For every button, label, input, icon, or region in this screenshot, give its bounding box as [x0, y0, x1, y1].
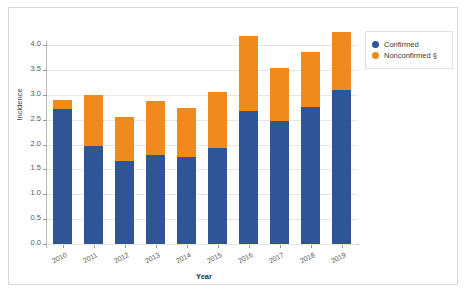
- bar-segment-nonconfirmed[interactable]: [239, 36, 258, 111]
- y-axis-tick-mark: [43, 194, 47, 195]
- x-axis-tick-label-2011: 2011: [81, 251, 98, 264]
- x-axis-tick-label-2010: 2010: [50, 251, 67, 264]
- x-axis-tick-mark: [125, 245, 126, 248]
- gridline: [47, 45, 357, 46]
- bar-segment-confirmed[interactable]: [146, 155, 165, 244]
- x-axis-tick-label-2013: 2013: [143, 251, 160, 264]
- x-axis-tick-mark: [187, 245, 188, 248]
- chart-figure-frame: Incidence 0.00.51.01.52.02.53.03.54.0 20…: [8, 7, 458, 285]
- y-axis-tick: 3.0: [9, 95, 47, 96]
- bar-2011[interactable]: [84, 95, 103, 244]
- x-axis-tick-mark: [94, 245, 95, 248]
- y-axis-tick-mark: [43, 169, 47, 170]
- y-axis-tick-label: 3.0: [31, 89, 41, 98]
- x-axis-tick-label-2017: 2017: [267, 251, 284, 264]
- bar-segment-nonconfirmed[interactable]: [332, 32, 351, 90]
- x-axis-tick-label-2019: 2019: [329, 251, 346, 264]
- x-axis-tick-mark: [63, 245, 64, 248]
- y-axis-tick-label: 1.5: [31, 163, 41, 172]
- y-axis-tick-label: 0.0: [31, 238, 41, 247]
- y-axis-tick: 2.5: [9, 120, 47, 121]
- bar-2012[interactable]: [115, 117, 134, 244]
- x-axis-tick-label-2015: 2015: [205, 251, 222, 264]
- y-axis-tick-label: 4.0: [31, 39, 41, 48]
- y-axis-tick-mark: [43, 95, 47, 96]
- y-axis-tick-mark: [43, 45, 47, 46]
- bar-segment-confirmed[interactable]: [177, 157, 196, 244]
- y-axis-tick-mark: [43, 244, 47, 245]
- y-axis-tick-mark: [43, 145, 47, 146]
- y-axis-title: Incidence: [15, 88, 24, 120]
- y-axis-tick: 0.5: [9, 219, 47, 220]
- bar-segment-confirmed[interactable]: [301, 107, 320, 244]
- bar-2018[interactable]: [301, 52, 320, 244]
- y-axis-tick-mark: [43, 219, 47, 220]
- y-axis-tick: 2.0: [9, 145, 47, 146]
- x-axis-tick-mark: [342, 245, 343, 248]
- y-axis-tick: 1.5: [9, 169, 47, 170]
- y-axis-tick: 1.0: [9, 194, 47, 195]
- bar-segment-confirmed[interactable]: [53, 109, 72, 244]
- bar-segment-confirmed[interactable]: [270, 121, 289, 244]
- y-axis-tick-mark: [43, 70, 47, 71]
- x-axis-tick-label-2012: 2012: [112, 251, 129, 264]
- y-axis-tick: 3.5: [9, 70, 47, 71]
- bar-segment-confirmed[interactable]: [332, 90, 351, 244]
- legend-item-label: Confirmed: [384, 40, 419, 49]
- bar-2010[interactable]: [53, 100, 72, 244]
- x-axis-tick-label-2016: 2016: [236, 251, 253, 264]
- x-axis-tick-mark: [280, 245, 281, 248]
- x-axis-tick-mark: [311, 245, 312, 248]
- bar-segment-nonconfirmed[interactable]: [146, 101, 165, 155]
- x-axis-tick-mark: [156, 245, 157, 248]
- x-axis-tick-label-2018: 2018: [298, 251, 315, 264]
- y-axis-tick-label: 2.5: [31, 114, 41, 123]
- bar-segment-nonconfirmed[interactable]: [208, 92, 227, 148]
- bar-2014[interactable]: [177, 108, 196, 244]
- bar-2017[interactable]: [270, 68, 289, 244]
- bar-segment-confirmed[interactable]: [239, 111, 258, 244]
- circle-swatch-icon: [372, 41, 379, 48]
- y-axis-tick-label: 2.0: [31, 139, 41, 148]
- circle-swatch-icon: [372, 52, 379, 59]
- x-axis-tick-mark: [218, 245, 219, 248]
- x-axis-tick-label-2014: 2014: [174, 251, 191, 264]
- bar-2016[interactable]: [239, 36, 258, 244]
- y-axis-tick-mark: [43, 120, 47, 121]
- y-axis-tick-label: 0.5: [31, 213, 41, 222]
- bar-2019[interactable]: [332, 32, 351, 244]
- legend-item[interactable]: Confirmed: [372, 40, 445, 49]
- x-axis-title: Year: [9, 272, 399, 281]
- legend-item-label: Nonconfirmed §: [384, 51, 437, 60]
- bar-segment-nonconfirmed[interactable]: [177, 108, 196, 157]
- y-axis-tick: 4.0: [9, 45, 47, 46]
- legend-item[interactable]: Nonconfirmed §: [372, 51, 445, 60]
- bar-segment-nonconfirmed[interactable]: [270, 68, 289, 120]
- bar-segment-nonconfirmed[interactable]: [301, 52, 320, 107]
- y-axis-tick-label: 3.5: [31, 64, 41, 73]
- y-axis-tick-label: 1.0: [31, 188, 41, 197]
- bar-2013[interactable]: [146, 101, 165, 244]
- bar-2015[interactable]: [208, 92, 227, 244]
- bar-segment-nonconfirmed[interactable]: [84, 95, 103, 146]
- bar-segment-confirmed[interactable]: [84, 146, 103, 244]
- bar-segment-nonconfirmed[interactable]: [115, 117, 134, 161]
- y-axis-tick: 0.0: [9, 244, 47, 245]
- bar-segment-confirmed[interactable]: [208, 148, 227, 244]
- bar-segment-confirmed[interactable]: [115, 161, 134, 244]
- bar-segment-nonconfirmed[interactable]: [53, 100, 72, 108]
- x-axis-tick-mark: [249, 245, 250, 248]
- plot-area: [47, 45, 357, 244]
- chart-legend: ConfirmedNonconfirmed §: [365, 31, 453, 69]
